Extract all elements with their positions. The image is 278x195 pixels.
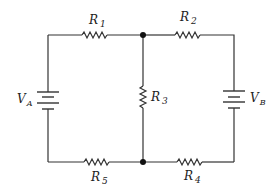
label-va: VA bbox=[17, 92, 33, 108]
resistor-r2 bbox=[175, 32, 200, 38]
label-vb: VB bbox=[250, 91, 266, 107]
junction-top bbox=[140, 32, 146, 38]
resistor-r4 bbox=[177, 159, 202, 165]
label-r2: R2 bbox=[179, 10, 197, 26]
resistor-r1 bbox=[82, 32, 107, 38]
junction-bottom bbox=[140, 159, 146, 165]
label-r3: R3 bbox=[150, 90, 168, 106]
label-r4: R4 bbox=[183, 169, 201, 185]
circuit-diagram: R1 R2 R3 R4 R5 VA VB bbox=[0, 0, 278, 195]
resistor-r3 bbox=[140, 86, 146, 108]
battery-vb bbox=[223, 91, 245, 108]
label-r1: R1 bbox=[88, 13, 106, 29]
wire-top-right-2 bbox=[200, 35, 234, 91]
resistor-r5 bbox=[84, 159, 109, 165]
label-r5: R5 bbox=[90, 170, 108, 186]
battery-va bbox=[37, 92, 59, 109]
